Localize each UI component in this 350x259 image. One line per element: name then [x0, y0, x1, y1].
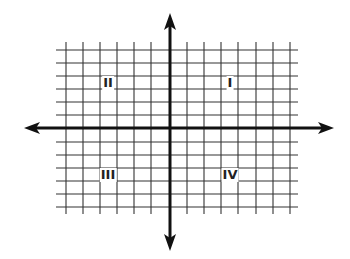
x-axis	[24, 122, 334, 134]
coordinate-plane	[0, 0, 350, 259]
y-axis	[164, 13, 176, 251]
quadrant-label-iii: III	[100, 168, 117, 182]
quadrant-label-iv: IV	[222, 168, 239, 182]
quadrant-label-ii: II	[102, 76, 114, 90]
quadrant-label-i: I	[227, 76, 234, 90]
